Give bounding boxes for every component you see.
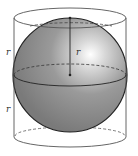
sphere-in-cylinder-diagram: r r r [0, 0, 138, 156]
label-lower-left-radius: r [6, 104, 11, 114]
label-sphere-radius: r [76, 47, 81, 57]
top-center-point [69, 17, 72, 20]
center-point [69, 74, 72, 77]
label-upper-left-radius: r [6, 47, 11, 57]
cylinder-bottom-front-edge [14, 137, 126, 147]
